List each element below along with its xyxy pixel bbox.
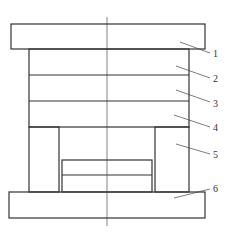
part-1-top-plate (11, 24, 205, 49)
leader-line-5 (176, 144, 210, 154)
part-label-3: 3 (213, 98, 218, 109)
part-label-6: 6 (213, 183, 218, 194)
leader-line-3 (176, 90, 210, 102)
part-label-5: 5 (213, 149, 218, 160)
part-5-right-support (155, 127, 189, 192)
part-5-left-support (29, 127, 59, 192)
stacked-plates-body (29, 49, 189, 127)
part-label-4: 4 (213, 122, 218, 133)
part-label-1: 1 (213, 48, 218, 59)
part-label-2: 2 (213, 73, 218, 84)
mold-diagram: 1 2 3 4 5 6 (0, 0, 228, 233)
leader-line-4 (174, 115, 210, 127)
leader-line-2 (176, 66, 210, 78)
